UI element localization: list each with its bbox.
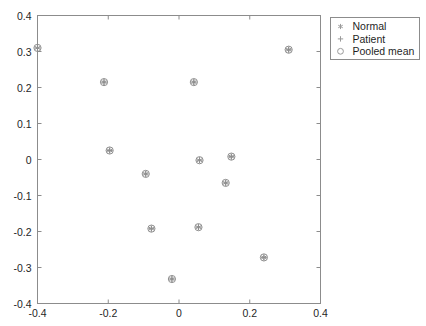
- y-tick-label: 0.3: [17, 46, 32, 58]
- data-point-plus: [35, 45, 41, 51]
- legend-label: Normal: [353, 20, 387, 32]
- data-point-plus: [107, 148, 113, 154]
- y-tick-label: 0.1: [17, 118, 32, 130]
- x-tick-label: 0.2: [242, 307, 257, 319]
- y-tick-label: 0.2: [17, 82, 32, 94]
- axes-frame: [38, 16, 321, 304]
- y-tick-label: -0.1: [13, 190, 31, 202]
- legend-label: Patient: [353, 33, 386, 45]
- data-point-plus: [261, 254, 267, 260]
- x-tick-label: 0: [176, 307, 182, 319]
- plot-svg: -0.4-0.200.20.40.40.30.20.10-0.1-0.2-0.3…: [0, 0, 426, 326]
- data-point-plus: [191, 79, 197, 85]
- data-point-plus: [197, 157, 203, 163]
- plot-axes: -0.4-0.200.20.40.40.30.20.10-0.1-0.2-0.3…: [13, 10, 328, 319]
- y-tick-label: -0.2: [13, 226, 31, 238]
- y-tick-label: -0.4: [13, 298, 31, 310]
- y-tick-label: -0.3: [13, 262, 31, 274]
- series-normal: [35, 45, 291, 282]
- x-tick-label: 0.4: [313, 307, 328, 319]
- data-point-plus: [195, 224, 201, 230]
- data-point-plus: [223, 180, 229, 186]
- legend: NormalPatientPooled mean: [331, 18, 420, 60]
- data-point-plus: [101, 79, 107, 85]
- data-point-plus: [286, 47, 292, 53]
- data-point-plus: [169, 276, 175, 282]
- scatter-plot-figure: -0.4-0.200.20.40.40.30.20.10-0.1-0.2-0.3…: [0, 0, 426, 326]
- data-markers: [34, 44, 292, 282]
- data-point-plus: [148, 226, 154, 232]
- data-point-plus: [228, 154, 234, 160]
- series-pooled-mean: [34, 44, 292, 282]
- legend-label: Pooled mean: [353, 45, 415, 57]
- y-tick-label: 0.4: [17, 10, 32, 22]
- series-patient: [35, 45, 292, 282]
- y-tick-label: 0: [26, 154, 32, 166]
- data-point-plus: [143, 171, 149, 177]
- x-tick-label: -0.2: [99, 307, 117, 319]
